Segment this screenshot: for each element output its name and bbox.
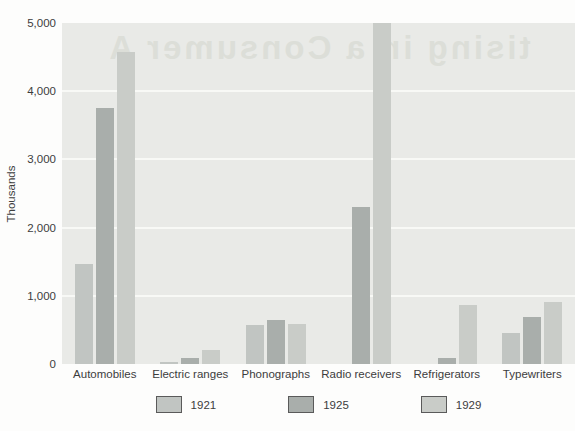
chart-figure: Thousands 01,0002,0003,0004,0005,000 tis…: [0, 0, 575, 431]
x-axis-label: Electric ranges: [148, 368, 234, 380]
legend-label: 1929: [456, 399, 482, 411]
bar-group-typewriters: [490, 23, 575, 364]
bar-1929-phonographs: [288, 324, 306, 364]
y-axis-title-text: Thousands: [5, 165, 17, 222]
y-tick-label: 3,000: [0, 153, 56, 165]
bar-1925-typewriters: [523, 317, 541, 364]
bar-1921-electric-ranges: [160, 362, 178, 364]
y-tick-label: 5,000: [0, 17, 56, 29]
legend-item-1929: 1929: [421, 396, 482, 413]
bar-group-automobiles: [62, 23, 148, 364]
bar-1921-typewriters: [502, 333, 520, 364]
x-axis-label: Automobiles: [62, 368, 148, 380]
bar-1921-automobiles: [75, 264, 93, 364]
bar-1925-phonographs: [267, 320, 285, 364]
x-axis-label: Phonographs: [233, 368, 319, 380]
legend-label: 1921: [191, 399, 217, 411]
x-axis-labels: AutomobilesElectric rangesPhonographsRad…: [62, 368, 575, 380]
legend-swatch-1925: [288, 396, 314, 413]
bar-1929-electric-ranges: [202, 350, 220, 364]
bar-1925-automobiles: [96, 108, 114, 364]
bar-1925-refrigerators: [438, 358, 456, 364]
y-tick-label: 4,000: [0, 85, 56, 97]
bar-1925-electric-ranges: [181, 358, 199, 364]
legend-label: 1925: [323, 399, 349, 411]
bar-1929-refrigerators: [459, 305, 477, 364]
x-axis-label: Refrigerators: [404, 368, 490, 380]
bar-group-electric-ranges: [148, 23, 234, 364]
legend: 192119251929: [62, 396, 575, 413]
y-tick-label: 0: [0, 358, 56, 370]
legend-swatch-1921: [156, 396, 182, 413]
bar-group-phonographs: [233, 23, 319, 364]
plot-area: tising in a Consumer A: [62, 23, 575, 364]
legend-item-1925: 1925: [288, 396, 349, 413]
y-tick-label: 2,000: [0, 222, 56, 234]
bar-group-refrigerators: [404, 23, 490, 364]
bar-groups: [62, 23, 575, 364]
legend-swatch-1929: [421, 396, 447, 413]
y-tick-label: 1,000: [0, 290, 56, 302]
bar-group-radio-receivers: [319, 23, 405, 364]
bar-1925-radio-receivers: [352, 207, 370, 364]
bar-1929-typewriters: [544, 302, 562, 364]
y-axis-title: Thousands: [2, 23, 20, 364]
x-axis-label: Typewriters: [490, 368, 575, 380]
legend-item-1921: 1921: [156, 396, 217, 413]
bar-1929-automobiles: [117, 52, 135, 364]
x-axis-label: Radio receivers: [319, 368, 405, 380]
bar-1921-phonographs: [246, 325, 264, 364]
bar-1929-radio-receivers: [373, 23, 391, 364]
